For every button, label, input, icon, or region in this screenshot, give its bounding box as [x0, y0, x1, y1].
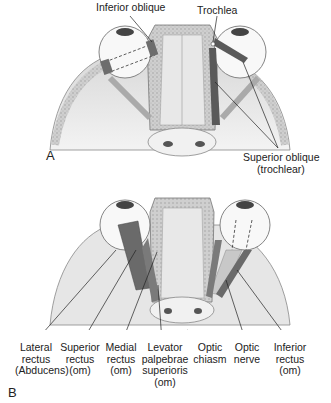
orbit-diagram-panel-a — [0, 0, 331, 165]
label-inferior-rectus: Inferior rectus (om) — [272, 342, 308, 377]
label-superior-rectus: Superior rectus (om) — [60, 342, 100, 377]
label-trochlea: Trochlea — [197, 5, 237, 17]
label-optic-nerve: Optic nerve — [230, 342, 264, 365]
label-lateral-rectus: Lateral rectus (Abducens) — [15, 342, 57, 377]
panel-a-letter: A — [46, 148, 55, 163]
label-inferior-oblique: Inferior oblique — [96, 2, 165, 14]
orbit-diagram-panel-b — [0, 190, 331, 330]
label-optic-chiasm: Optic chiasm — [192, 342, 228, 365]
label-superior-oblique: Superior oblique — [243, 152, 319, 164]
label-levator-palpebrae-superioris: Levator palpebrae superioris (om) — [141, 342, 189, 388]
panel-b-letter: B — [8, 385, 17, 400]
label-trochlear: (trochlear) — [257, 164, 305, 176]
label-medial-rectus: Medial rectus (om) — [103, 342, 139, 377]
